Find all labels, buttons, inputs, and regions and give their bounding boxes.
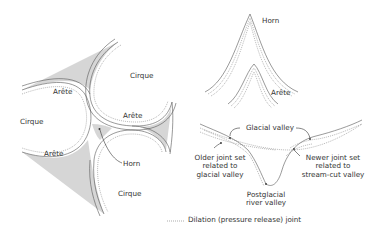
- label-horn: Horn: [123, 160, 140, 168]
- label-horn-section: Horn: [262, 17, 279, 25]
- label-cirque-top: Cirque: [130, 72, 153, 80]
- label-glacial-valley: Glacial valley: [246, 124, 294, 132]
- label-arete-section: Arête: [271, 89, 290, 97]
- legend-label: Dilation (pressure release) joint: [188, 216, 301, 224]
- label-cirque-left: Cirque: [20, 118, 43, 126]
- label-arete-lower-left: Arête: [44, 150, 63, 158]
- label-newer-joint-set: Newer joint set related to stream-cut va…: [297, 154, 369, 179]
- newer-joint-line3: stream-cut valley: [297, 171, 369, 179]
- glacial-landforms-diagram: Cirque Arête Cirque Arête Arête Horn Cir…: [0, 0, 382, 239]
- label-older-joint-set: Older joint set related to glacial valle…: [188, 154, 252, 179]
- diagram-graphics: [0, 0, 382, 239]
- label-postglacial-river-valley: Postglacial river valley: [236, 191, 296, 208]
- label-arete-center: Arête: [123, 112, 142, 120]
- label-cirque-bottom: Cirque: [118, 190, 141, 198]
- arete-cross-section: [228, 64, 278, 108]
- postglacial-line2: river valley: [236, 199, 296, 207]
- horn-cross-section: [205, 14, 298, 96]
- shaded-ridges: [22, 42, 172, 214]
- label-arete-upper-left: Arête: [53, 88, 72, 96]
- older-joint-line3: glacial valley: [188, 171, 252, 179]
